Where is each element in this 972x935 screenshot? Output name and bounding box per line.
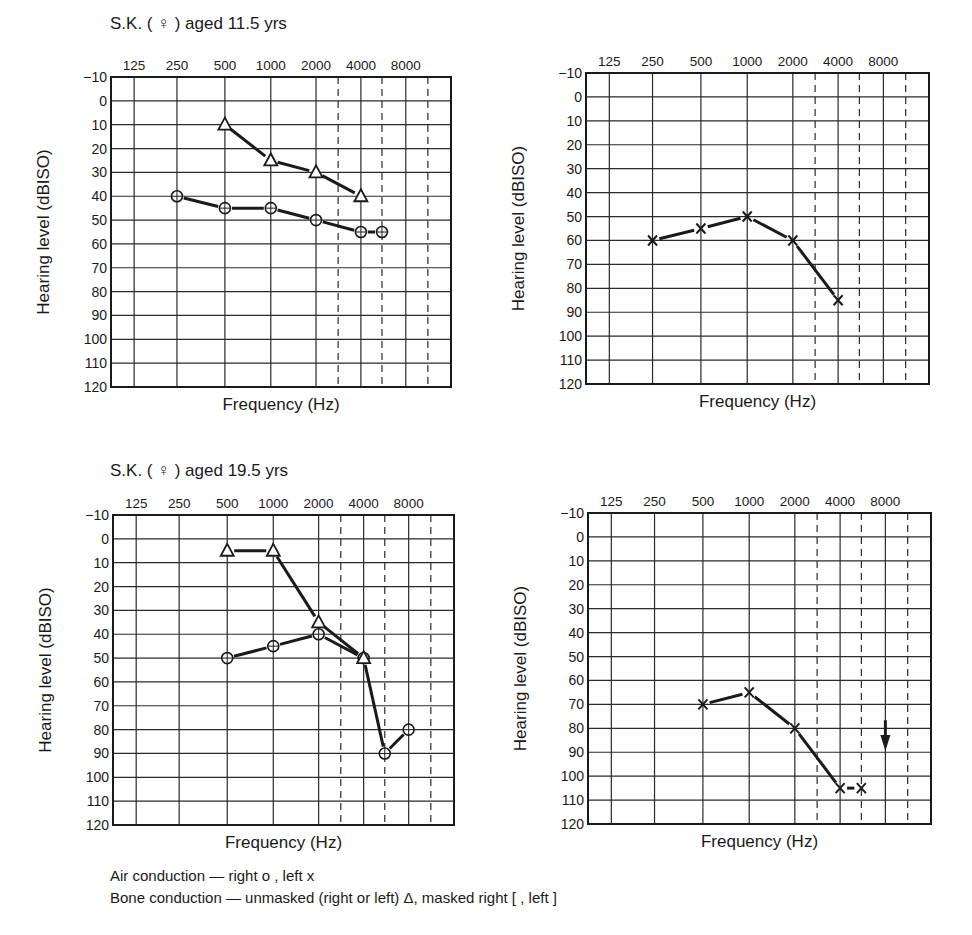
svg-text:500: 500	[214, 58, 237, 73]
svg-text:120: 120	[84, 379, 108, 395]
svg-text:110: 110	[85, 355, 108, 371]
svg-text:120: 120	[559, 376, 583, 392]
svg-text:120: 120	[561, 816, 585, 832]
svg-text:8000: 8000	[868, 54, 898, 69]
svg-text:40: 40	[91, 188, 107, 204]
svg-text:30: 30	[91, 164, 107, 180]
svg-text:30: 30	[93, 602, 109, 618]
svg-text:20: 20	[566, 137, 582, 153]
svg-text:70: 70	[568, 696, 584, 712]
audiogram-panel-1: −100102030405060708090100110120125250500…	[34, 58, 451, 414]
svg-text:1000: 1000	[256, 58, 286, 73]
svg-text:60: 60	[93, 674, 109, 690]
svg-text:−10: −10	[83, 69, 107, 85]
svg-text:20: 20	[93, 579, 109, 595]
svg-text:80: 80	[566, 280, 582, 296]
svg-text:4000: 4000	[349, 496, 379, 511]
svg-text:125: 125	[598, 54, 621, 69]
svg-text:Hearing level (dBISO): Hearing level (dBISO)	[511, 586, 530, 751]
svg-text:4000: 4000	[346, 58, 376, 73]
svg-text:50: 50	[568, 649, 584, 665]
svg-text:10: 10	[568, 553, 584, 569]
svg-text:Hearing level (dBISO): Hearing level (dBISO)	[509, 146, 528, 311]
svg-text:110: 110	[562, 792, 585, 808]
svg-text:90: 90	[91, 307, 107, 323]
svg-text:110: 110	[560, 352, 583, 368]
svg-text:250: 250	[641, 54, 664, 69]
svg-text:500: 500	[690, 54, 713, 69]
svg-text:50: 50	[91, 212, 107, 228]
svg-text:80: 80	[568, 720, 584, 736]
svg-text:110: 110	[87, 793, 110, 809]
svg-text:30: 30	[568, 601, 584, 617]
svg-text:80: 80	[93, 722, 109, 738]
svg-text:1000: 1000	[734, 494, 764, 509]
svg-text:Frequency (Hz): Frequency (Hz)	[222, 395, 339, 414]
svg-text:8000: 8000	[870, 494, 900, 509]
svg-text:125: 125	[125, 496, 148, 511]
svg-text:60: 60	[568, 672, 584, 688]
svg-text:40: 40	[568, 625, 584, 641]
legend-bone-conduction: Bone conduction — unmasked (right or lef…	[110, 889, 557, 906]
svg-text:50: 50	[93, 650, 109, 666]
svg-text:250: 250	[166, 58, 189, 73]
svg-text:10: 10	[566, 113, 582, 129]
svg-text:60: 60	[566, 232, 582, 248]
svg-text:60: 60	[91, 236, 107, 252]
svg-text:2000: 2000	[780, 494, 810, 509]
svg-text:1000: 1000	[732, 54, 762, 69]
svg-text:Frequency (Hz): Frequency (Hz)	[701, 832, 818, 851]
svg-text:100: 100	[84, 331, 108, 347]
audiogram-panel-2: −100102030405060708090100110120125250500…	[509, 54, 929, 411]
svg-text:0: 0	[101, 531, 109, 547]
svg-text:−10: −10	[85, 507, 109, 523]
svg-text:0: 0	[574, 89, 582, 105]
svg-text:120: 120	[86, 817, 110, 833]
svg-text:70: 70	[93, 698, 109, 714]
svg-text:4000: 4000	[825, 494, 855, 509]
svg-text:90: 90	[566, 304, 582, 320]
svg-text:Hearing level (dBISO): Hearing level (dBISO)	[36, 587, 55, 752]
svg-text:50: 50	[566, 209, 582, 225]
svg-text:0: 0	[576, 529, 584, 545]
svg-text:40: 40	[93, 626, 109, 642]
svg-text:80: 80	[91, 284, 107, 300]
svg-text:250: 250	[168, 496, 191, 511]
svg-text:Frequency (Hz): Frequency (Hz)	[225, 833, 342, 852]
audiogram-panel-3: −100102030405060708090100110120125250500…	[36, 496, 454, 852]
svg-text:10: 10	[91, 117, 107, 133]
svg-text:500: 500	[692, 494, 715, 509]
legend-air-conduction: Air conduction — right ο , left x	[110, 867, 314, 884]
svg-text:0: 0	[99, 93, 107, 109]
svg-text:2000: 2000	[301, 58, 331, 73]
svg-text:100: 100	[559, 328, 583, 344]
svg-text:250: 250	[643, 494, 666, 509]
svg-text:90: 90	[93, 745, 109, 761]
svg-text:8000: 8000	[391, 58, 421, 73]
audiogram-charts: −100102030405060708090100110120125250500…	[0, 0, 972, 935]
svg-text:40: 40	[566, 185, 582, 201]
svg-text:−10: −10	[560, 505, 584, 521]
svg-text:90: 90	[568, 744, 584, 760]
svg-text:Frequency (Hz): Frequency (Hz)	[699, 392, 816, 411]
svg-text:2000: 2000	[778, 54, 808, 69]
svg-text:100: 100	[86, 769, 110, 785]
svg-text:Hearing level (dBISO): Hearing level (dBISO)	[34, 149, 53, 314]
svg-text:8000: 8000	[394, 496, 424, 511]
svg-text:30: 30	[566, 161, 582, 177]
audiogram-panel-4: −100102030405060708090100110120125250500…	[511, 494, 931, 851]
svg-text:70: 70	[566, 256, 582, 272]
svg-text:20: 20	[91, 141, 107, 157]
svg-text:70: 70	[91, 260, 107, 276]
svg-text:20: 20	[568, 577, 584, 593]
svg-text:2000: 2000	[304, 496, 334, 511]
svg-text:−10: −10	[558, 65, 582, 81]
svg-text:10: 10	[93, 555, 109, 571]
svg-text:125: 125	[123, 58, 146, 73]
svg-text:4000: 4000	[823, 54, 853, 69]
svg-text:125: 125	[600, 494, 623, 509]
svg-text:500: 500	[216, 496, 239, 511]
svg-text:1000: 1000	[258, 496, 288, 511]
svg-text:100: 100	[561, 768, 585, 784]
